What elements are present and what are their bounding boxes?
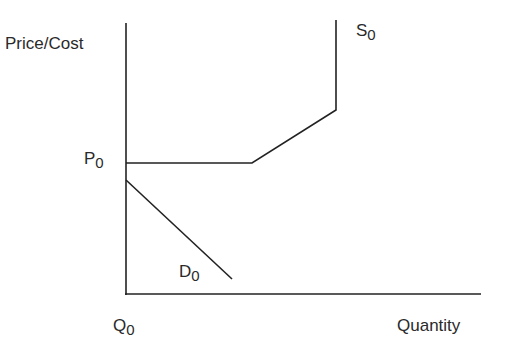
- d0-label: D0: [179, 263, 200, 280]
- y-axis-label: Price/Cost: [5, 35, 83, 52]
- s0-label: S0: [356, 22, 376, 39]
- d0-sub: 0: [191, 267, 199, 284]
- p0-base: P: [84, 149, 95, 168]
- d0-base: D: [179, 262, 191, 281]
- q0-sub: 0: [126, 321, 134, 338]
- x-axis-label: Quantity: [397, 317, 460, 334]
- q0-base: Q: [113, 316, 126, 335]
- s0-base: S: [356, 21, 367, 40]
- s0-sub: 0: [367, 26, 375, 43]
- p0-sub: 0: [95, 154, 103, 171]
- supply-curve-s0: [126, 20, 336, 163]
- q0-tick-label: Q0: [113, 317, 135, 334]
- p0-tick-label: P0: [84, 150, 104, 167]
